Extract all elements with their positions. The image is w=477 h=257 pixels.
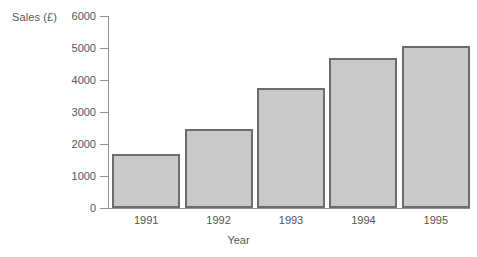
y-tick [100,112,108,113]
x-tick-label: 1991 [134,214,158,226]
y-tick-label: 1000 [72,170,96,182]
x-tick-label: 1994 [351,214,375,226]
y-axis-line [108,16,109,208]
bar-chart: Sales (£) 0100020003000400050006000 1991… [0,0,477,257]
y-tick [100,16,108,17]
y-tick [100,208,108,209]
y-tick-label: 5000 [72,42,96,54]
y-tick-label: 0 [90,202,96,214]
y-axis-title: Sales (£) [12,11,57,23]
bar-1991 [112,154,180,208]
y-tick-label: 2000 [72,138,96,150]
y-tick [100,80,108,81]
bar-1992 [185,129,253,208]
x-tick-label: 1992 [206,214,230,226]
y-tick-label: 3000 [72,106,96,118]
x-axis-line [108,208,470,209]
plot-area [108,16,470,208]
y-tick [100,48,108,49]
bar-1994 [329,58,397,208]
x-tick-label: 1995 [424,214,448,226]
x-tick-label: 1993 [279,214,303,226]
y-tick-label: 4000 [72,74,96,86]
y-tick-label: 6000 [72,10,96,22]
y-tick [100,144,108,145]
bar-1995 [402,46,470,208]
bar-1993 [257,88,325,208]
y-tick [100,176,108,177]
x-axis-title: Year [0,234,477,246]
